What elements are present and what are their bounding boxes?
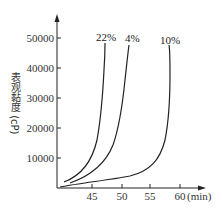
x-tick-45: 45 <box>87 190 99 202</box>
series-22pct-curve <box>64 43 105 182</box>
chart-plot: 10000 20000 30000 40000 50000 45 50 55 6… <box>0 0 222 214</box>
x-ticks: 45 50 55 60 (min) <box>87 184 212 203</box>
y-tick-10000: 10000 <box>27 152 55 164</box>
y-tick-50000: 50000 <box>27 32 55 44</box>
series-4pct-curve <box>70 45 129 183</box>
x-tick-55: 55 <box>145 190 157 202</box>
x-tick-50: 50 <box>117 190 129 202</box>
y-tick-40000: 40000 <box>27 62 55 74</box>
y-tick-20000: 20000 <box>27 122 55 134</box>
y-tick-30000: 30000 <box>27 92 55 104</box>
chart-figure: 表观黏度 (cP) 10000 20000 30000 40000 50000 … <box>0 0 222 214</box>
series-label-4pct: 4% <box>125 32 140 44</box>
y-ticks: 10000 20000 30000 40000 50000 <box>27 32 62 164</box>
y-axis-arrow-icon <box>55 14 60 22</box>
series-label-22pct: 22% <box>96 31 116 43</box>
x-axis-unit: (min) <box>187 190 212 203</box>
series-10pct-curve <box>60 45 170 187</box>
x-tick-60: 60 <box>175 190 187 202</box>
series-label-10pct: 10% <box>160 34 180 46</box>
